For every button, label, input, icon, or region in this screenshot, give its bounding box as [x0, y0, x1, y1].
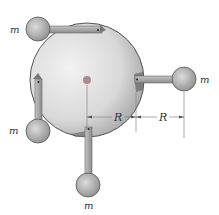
mass-label-top: m: [10, 24, 19, 35]
rod-top: [46, 26, 102, 33]
mass-bottom: [76, 127, 100, 197]
diagram-canvas: R R m m m m: [0, 0, 219, 215]
center-dot: [83, 76, 91, 84]
pivot-pin-top: [97, 29, 99, 31]
rod-left: [35, 79, 42, 122]
rod-bottom: [85, 127, 92, 175]
pivot-pin-bottom: [88, 128, 90, 130]
mass-right: [135, 67, 196, 91]
ball-left: [26, 119, 50, 143]
ball-bottom: [76, 173, 100, 197]
pivot-pin-right: [136, 79, 138, 81]
pivot-pin-left: [38, 81, 40, 83]
dimension-label-r-1: R: [113, 111, 122, 124]
mass-label-left: m: [9, 125, 18, 136]
rod-right: [135, 76, 175, 83]
ball-top: [26, 17, 50, 41]
dimension-label-r-2: R: [158, 111, 167, 124]
ball-right: [172, 67, 196, 91]
mass-label-bottom: m: [84, 200, 93, 211]
mass-label-right: m: [200, 74, 209, 85]
